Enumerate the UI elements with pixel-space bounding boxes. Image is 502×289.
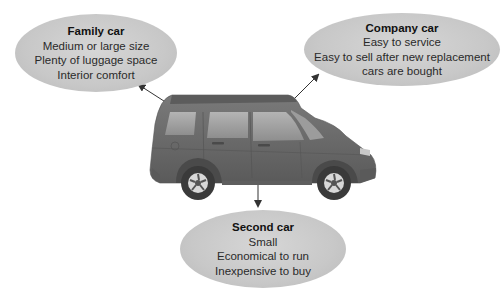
node-line: Interior comfort [57,68,134,83]
second-car-node: Second car Small Economical to run Inexp… [180,210,346,288]
rear-wheel-icon [181,166,215,200]
node-title: Second car [232,220,294,235]
node-line: Small [249,235,278,250]
node-line: Plenty of luggage space [35,53,158,68]
node-title: Company car [366,21,439,36]
node-line: Medium or large size [43,39,150,54]
node-title: Family car [68,24,125,39]
node-line: Easy to sell after new replacement [314,50,490,65]
company-car-node: Company car Easy to service Easy to sell… [304,13,500,86]
arrow-to-family [139,85,167,103]
node-line: cars are bought [362,64,442,79]
node-line: Easy to service [363,35,441,50]
front-wheel-icon [317,166,351,200]
suv-car-icon [150,95,376,200]
family-car-node: Family car Medium or large size Plenty o… [15,14,177,92]
node-line: Inexpensive to buy [215,264,311,279]
node-line: Economical to run [217,249,309,264]
